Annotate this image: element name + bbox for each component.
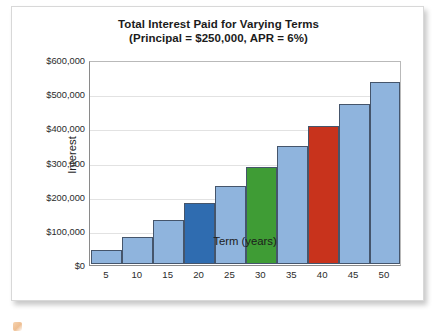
x-axis-tick-label: 45 [348,269,359,280]
page-root: Total Interest Paid for Varying Terms (P… [0,0,437,336]
figure-card: Total Interest Paid for Varying Terms (P… [11,6,424,301]
y-axis-tick-label: $0 [13,261,85,271]
x-axis-tick-label: 50 [379,269,390,280]
bar-5-years[interactable] [91,250,122,263]
y-axis-tick-label: $200,000 [13,193,85,203]
y-axis-tick-label: $100,000 [13,227,85,237]
bar-slot [277,62,308,264]
x-axis-tick-label: 25 [224,269,235,280]
bar-slot [122,62,153,264]
x-axis-tick-label: 30 [255,269,266,280]
x-axis-tick-label: 35 [286,269,297,280]
bar-slot [184,62,215,264]
x-axis-tick-label: 20 [193,269,204,280]
bar-25-years[interactable] [215,186,246,264]
x-axis-title: Term (years) [89,235,401,247]
y-axis-tick-label: $400,000 [13,124,85,134]
y-axis-tick-label: $500,000 [13,90,85,100]
bar-slot [246,62,277,264]
bar-slot [308,62,339,264]
bar-slot [215,62,246,264]
bar-slot [91,62,122,264]
chart-title: Total Interest Paid for Varying Terms (P… [12,17,425,45]
bar-slot [339,62,370,264]
chart-title-line1: Total Interest Paid for Varying Terms [118,18,319,30]
x-axis-tick-label: 15 [162,269,173,280]
x-axis-tick-label: 5 [103,269,108,280]
y-axis-tick-label: $300,000 [13,159,85,169]
bar-series [91,62,400,264]
bar-20-years[interactable] [184,203,215,264]
y-axis-tick-label: $600,000 [13,56,85,66]
bar-slot [370,62,401,264]
bar-slot [153,62,184,264]
x-axis-tick-label: 40 [317,269,328,280]
bar-30-years[interactable] [246,167,277,264]
x-axis-tick-label: 10 [131,269,142,280]
page-corner-mark [13,322,22,331]
chart-title-line2: (Principal = $250,000, APR = 6%) [12,31,425,45]
